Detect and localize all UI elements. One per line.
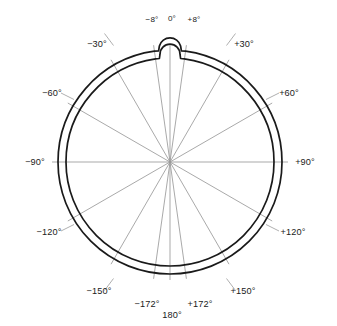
label-plus90: +90° (295, 157, 315, 167)
radial-line-minus172 (154, 162, 170, 279)
radial-line-minus30 (111, 60, 170, 162)
label-minus172: −172° (135, 299, 160, 309)
leader-line-minus120 (61, 225, 74, 232)
radial-line-minus150 (111, 162, 170, 264)
radial-line-plus60 (170, 103, 272, 162)
polar-diagram-canvas: −8° 0° +8° −30° +30° −60° +60° −90° +90°… (0, 0, 337, 326)
label-plus8: +8° (188, 15, 201, 24)
label-plus60: +60° (279, 88, 299, 98)
label-180: 180° (162, 310, 182, 320)
radial-line-plus8 (170, 45, 186, 162)
label-plus172: +172° (188, 299, 213, 309)
radial-angle-lines (52, 44, 288, 280)
leader-line-plus60 (266, 93, 279, 100)
polar-angle-diagram: −8° 0° +8° −30° +30° −60° +60° −90° +90°… (0, 0, 337, 326)
leader-line-plus120 (266, 225, 279, 232)
radial-line-plus150 (170, 162, 229, 264)
leader-line-minus60 (61, 93, 74, 100)
label-minus90: −90° (25, 157, 45, 167)
radial-line-plus172 (170, 162, 186, 279)
radial-line-minus8 (154, 45, 170, 162)
label-zero: 0° (168, 14, 176, 23)
radial-line-plus120 (170, 162, 272, 221)
radial-line-plus30 (170, 60, 229, 162)
label-plus120: +120° (281, 227, 306, 237)
label-minus60: −60° (42, 88, 62, 98)
label-plus150: +150° (231, 286, 256, 296)
radial-line-minus120 (68, 162, 170, 221)
label-minus30: −30° (87, 39, 107, 49)
label-minus150: −150° (87, 286, 112, 296)
label-plus30: +30° (234, 39, 254, 49)
radial-line-minus60 (68, 103, 170, 162)
label-minus8: −8° (146, 15, 159, 24)
label-minus120: −120° (37, 227, 62, 237)
